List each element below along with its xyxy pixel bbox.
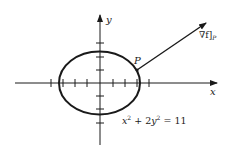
gradient-vector-arrow xyxy=(137,23,206,70)
svg-text:∇f]P: ∇f]P xyxy=(199,30,217,41)
x-axis-label: x xyxy=(210,86,216,97)
gradient-vector-label: ∇f]P xyxy=(199,30,217,41)
eq-rhs: = 11 xyxy=(160,115,186,126)
diagram-canvas: y x P ∇f]P x2 + 2y2 = 11 xyxy=(0,0,230,151)
vector-label-sub: P xyxy=(211,34,217,41)
eq-plus: + 2 xyxy=(131,115,151,126)
y-axis-label: y xyxy=(105,14,112,25)
ellipse-equation: x2 + 2y2 = 11 xyxy=(122,114,187,126)
point-p-label: P xyxy=(133,55,141,66)
